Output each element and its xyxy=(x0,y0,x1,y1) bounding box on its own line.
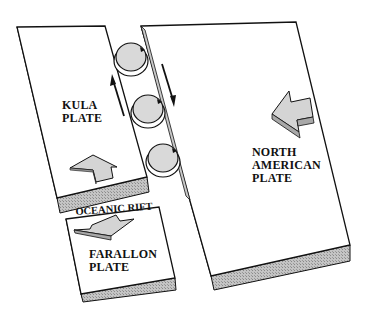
ball-bearing-2 xyxy=(131,95,165,128)
farallon-plate-label: FARALLON PLATE xyxy=(89,248,157,274)
farallon-label-line2: PLATE xyxy=(89,261,157,274)
ball-bearing-3 xyxy=(146,144,180,177)
na-label-line3: PLATE xyxy=(252,172,321,185)
ball-bearing-1 xyxy=(114,43,148,76)
kula-plate-label: KULA PLATE xyxy=(62,99,102,125)
kula-label-line2: PLATE xyxy=(62,112,102,125)
north-american-plate-label: NORTH AMERICAN PLATE xyxy=(252,146,321,185)
plate-tectonics-diagram: KULA PLATE NORTH AMERICAN PLATE FARALLON… xyxy=(0,0,365,313)
